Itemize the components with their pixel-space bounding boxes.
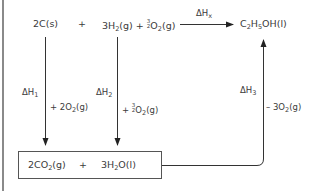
- h2o-product: 3H2O(l): [101, 160, 136, 172]
- dh1-sub: 1: [34, 91, 38, 99]
- o-state: (g): [162, 20, 175, 31]
- co2-product: 2CO2(g): [28, 160, 66, 172]
- arrow-dh3: [162, 40, 264, 166]
- dh1-reagent: + 2O2(g): [50, 103, 88, 114]
- dh1-label: ΔH1: [22, 88, 38, 99]
- reagent-prefix: – 3O: [266, 102, 285, 112]
- c-symbol: C: [240, 18, 247, 29]
- dh2-reagent: + 32O2(g): [122, 103, 158, 117]
- o-symbol: O: [150, 20, 157, 31]
- h2o-symbol: 3H: [101, 159, 114, 170]
- dhx-label: ΔHx: [196, 9, 212, 20]
- reagent-prefix: +: [122, 105, 132, 115]
- dh1-main: ΔH: [22, 87, 34, 97]
- box-plus-sign: +: [79, 160, 87, 170]
- reagent-state: (g): [76, 102, 88, 112]
- reagent-state: (g): [289, 102, 301, 112]
- dh2-main: ΔH: [96, 87, 108, 97]
- h-symbol: 3H: [102, 20, 115, 31]
- h-state-plus: (g) +: [119, 20, 146, 31]
- reagent-state: (g): [146, 105, 158, 115]
- plus-sign: +: [78, 19, 86, 29]
- dh3-main: ΔH: [240, 85, 252, 95]
- dh2-sub: 2: [108, 91, 112, 99]
- reactant-carbon: 2C(s): [33, 19, 58, 29]
- co2-state: (g): [52, 159, 65, 170]
- dh3-label: ΔH3: [240, 86, 256, 97]
- dh2-label: ΔH2: [96, 88, 112, 99]
- dhx-main: ΔH: [196, 8, 208, 18]
- reagent-prefix: + 2O: [50, 102, 72, 112]
- reactant-hydrogen-oxygen: 3H2(g) + 32O2(g): [102, 19, 175, 33]
- dh3-sub: 3: [252, 89, 256, 97]
- product-ethanol: C2H5OH(l): [240, 19, 287, 31]
- h-symbol: H: [251, 18, 258, 29]
- oh-state: OH(l): [262, 18, 287, 29]
- h2o-state: O(l): [118, 159, 136, 170]
- dh3-reagent: – 3O2(g): [266, 103, 301, 114]
- dhx-sub: x: [208, 12, 212, 20]
- co2-symbol: 2CO: [28, 159, 48, 170]
